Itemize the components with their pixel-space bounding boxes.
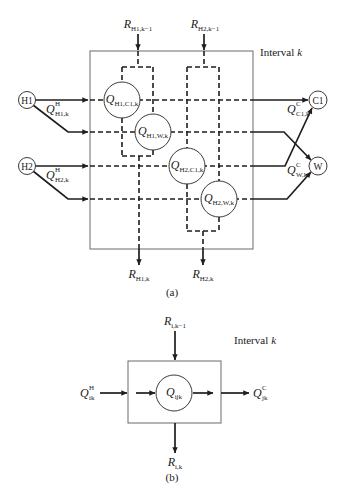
- cold-stream-w-node: W: [309, 157, 327, 175]
- figure-b: Ri,k−1 Intervalk Q H ik Qijk Q C jk Ri,k: [80, 314, 277, 484]
- exchange-h1-w: QH1,W,k: [135, 114, 171, 150]
- exchange-h1-c1: QH1,C1,k: [104, 82, 140, 118]
- hot-stream-h1-node: H1: [19, 92, 36, 109]
- svg-text:C: C: [296, 100, 301, 108]
- residual-in-h1-label: RH1,k−1: [123, 17, 153, 33]
- svg-text:H: H: [55, 166, 60, 174]
- svg-text:jk: jk: [261, 394, 268, 402]
- svg-text:H2: H2: [21, 162, 33, 172]
- svg-text:ik: ik: [89, 394, 95, 402]
- svg-text:H: H: [89, 384, 94, 392]
- svg-text:Q: Q: [80, 386, 89, 400]
- interval-label-a: Intervalk: [260, 46, 303, 58]
- exchange-b: Qijk: [156, 375, 192, 411]
- heat-cascade-diagram: Intervalk RH1,k−1 RH2,k−1: [0, 0, 344, 484]
- residual-out-h1-label: RH1,k: [127, 267, 150, 283]
- exchange-h2-c1: QH2,C1,k: [169, 148, 205, 184]
- cold-load-label-b: Q C jk: [253, 384, 268, 402]
- residual-out-label-b: Ri,k: [167, 455, 183, 471]
- interval-box-a: [90, 51, 253, 249]
- hot-load-h2-label: Q H H2,k: [46, 166, 69, 184]
- svg-text:Q: Q: [46, 168, 55, 182]
- svg-text:W: W: [314, 162, 323, 172]
- hot-load-h1-label: Q H H1,k: [46, 100, 69, 118]
- svg-text:H1,k: H1,k: [55, 110, 69, 118]
- residual-in-label-b: Ri,k−1: [163, 314, 186, 330]
- svg-text:C1,k: C1,k: [296, 110, 310, 118]
- svg-text:Q: Q: [46, 102, 55, 116]
- interval-label-b: Intervalk: [234, 334, 277, 346]
- flow-h1-w-out: [253, 132, 311, 160]
- svg-text:C1: C1: [312, 96, 323, 106]
- svg-text:W,k: W,k: [296, 171, 308, 179]
- hot-stream-h2-node: H2: [19, 158, 36, 175]
- residual-bracket-h1: [122, 51, 153, 249]
- hot-load-label-b: Q H ik: [80, 384, 95, 402]
- svg-text:Q: Q: [253, 386, 262, 400]
- cold-load-w-label: Q C W,k: [287, 161, 308, 179]
- figure-a: Intervalk RH1,k−1 RH2,k−1: [19, 17, 328, 299]
- svg-text:H2,k: H2,k: [55, 176, 69, 184]
- exchange-h2-w: QH2,W,k: [201, 181, 237, 217]
- svg-text:Q: Q: [287, 163, 296, 177]
- svg-text:H: H: [55, 100, 60, 108]
- residual-in-h2-label: RH2,k−1: [190, 17, 220, 33]
- svg-text:Q: Q: [287, 102, 296, 116]
- svg-text:C: C: [262, 384, 267, 392]
- svg-text:H1: H1: [21, 96, 33, 106]
- caption-b: (b): [166, 471, 179, 484]
- svg-text:C: C: [296, 161, 301, 169]
- cold-load-c1-label: Q C C1,k: [287, 100, 310, 118]
- cold-stream-c1-node: C1: [309, 91, 327, 109]
- caption-a: (a): [166, 286, 179, 299]
- residual-out-h2-label: RH2,k: [191, 267, 214, 283]
